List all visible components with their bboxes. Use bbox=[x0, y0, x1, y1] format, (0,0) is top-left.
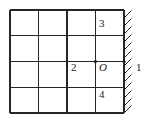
wall-label-1: 1 bbox=[136, 62, 142, 73]
wall-hatch bbox=[124, 35, 132, 43]
cell-label-3: 3 bbox=[99, 18, 105, 29]
wall-hatch bbox=[124, 51, 132, 59]
cell-label-origin: O bbox=[99, 62, 107, 73]
wall-hatch bbox=[124, 99, 132, 107]
origin-point bbox=[94, 60, 97, 63]
cell-label-2: 2 bbox=[71, 62, 77, 73]
wall-hatch bbox=[124, 75, 132, 83]
wall-hatch bbox=[124, 43, 132, 51]
wall-hatch bbox=[124, 27, 132, 35]
wall-hatch bbox=[124, 106, 132, 114]
grid-diagram-figure: 3 2 O 4 1 bbox=[0, 0, 147, 123]
cell-label-4: 4 bbox=[99, 89, 105, 100]
wall-hatch bbox=[124, 19, 132, 27]
wall-hatch bbox=[124, 11, 132, 19]
wall-hatch bbox=[124, 91, 132, 99]
wall-contact-point bbox=[122, 60, 125, 63]
wall-hatch bbox=[124, 83, 132, 91]
wall-hatch bbox=[124, 67, 132, 75]
